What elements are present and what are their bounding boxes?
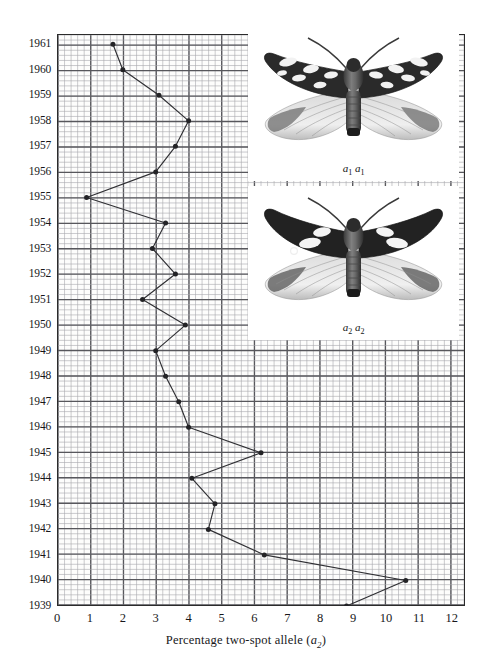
y-axis-tick-label: 1945 <box>5 447 51 458</box>
y-axis-tick-label: 1956 <box>5 166 51 177</box>
y-axis-tick-label: 1951 <box>5 294 51 305</box>
y-axis-tick-label: 1958 <box>5 115 51 126</box>
x-axis-labels: 0123456789101112 <box>0 611 492 629</box>
y-axis-tick-label: 1940 <box>5 574 51 585</box>
y-axis-tick-label: 1952 <box>5 268 51 279</box>
moth-a2a2-illustration <box>254 186 453 314</box>
y-axis-tick-label: 1942 <box>5 523 51 534</box>
inset-moth-a2a2-caption: a2 a2 <box>248 321 459 336</box>
y-axis-tick-label: 1941 <box>5 549 51 560</box>
x-axis-tick-label: 9 <box>338 611 368 626</box>
y-axis-tick-label: 1959 <box>5 89 51 100</box>
y-axis-tick-label: 1946 <box>5 421 51 432</box>
y-axis-tick-label: 1957 <box>5 140 51 151</box>
x-axis-title-suffix: ) <box>322 633 326 647</box>
inset-moth-a1a1: a1 a1 <box>248 28 459 181</box>
x-axis-tick-label: 10 <box>371 611 401 626</box>
y-axis-tick-label: 1961 <box>5 38 51 49</box>
y-axis-tick-label: 1949 <box>5 345 51 356</box>
x-axis-tick-label: 1 <box>75 611 105 626</box>
y-axis-tick-label: 1944 <box>5 472 51 483</box>
x-axis-tick-label: 11 <box>404 611 434 626</box>
y-axis-tick-label: 1960 <box>5 64 51 75</box>
figure-root: 1939194019411942194319441945194619471948… <box>0 0 492 670</box>
y-axis-tick-label: 1955 <box>5 191 51 202</box>
x-axis-tick-label: 6 <box>239 611 269 626</box>
x-axis-tick-label: 8 <box>305 611 335 626</box>
y-axis-tick-label: 1947 <box>5 396 51 407</box>
x-axis-tick-label: 3 <box>141 611 171 626</box>
x-axis-tick-label: 12 <box>437 611 467 626</box>
y-axis-tick-label: 1939 <box>5 600 51 611</box>
x-axis-tick-label: 7 <box>272 611 302 626</box>
x-axis-title-prefix: Percentage two-spot allele ( <box>166 633 311 647</box>
inset-moth-a1a1-caption: a1 a1 <box>248 162 459 177</box>
x-axis-tick-label: 5 <box>207 611 237 626</box>
x-axis-tick-label: 4 <box>174 611 204 626</box>
y-axis-tick-label: 1953 <box>5 243 51 254</box>
y-axis-tick-label: 1948 <box>5 370 51 381</box>
y-axis-labels: 1939194019411942194319441945194619471948… <box>0 34 51 606</box>
x-axis-tick-label: 2 <box>108 611 138 626</box>
y-axis-tick-label: 1950 <box>5 319 51 330</box>
y-axis-tick-label: 1943 <box>5 498 51 509</box>
x-axis-title: Percentage two-spot allele (a2) <box>0 633 492 650</box>
x-axis-tick-label: 0 <box>42 611 72 626</box>
inset-moth-a2a2: a2 a2 <box>248 186 459 340</box>
y-axis-tick-label: 1954 <box>5 217 51 228</box>
moth-a1a1-illustration <box>254 28 453 154</box>
